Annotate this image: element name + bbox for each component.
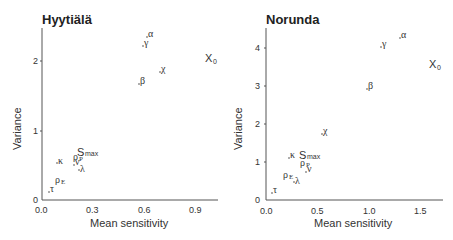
point-x0: X 0 — [429, 58, 441, 71]
svg-text:X: X — [429, 58, 437, 70]
y-tick: 3 — [255, 81, 260, 91]
y-tick: 4 — [255, 43, 260, 53]
x-tick: 1.5 — [414, 206, 427, 216]
svg-text:ρ: ρ — [283, 169, 288, 180]
chart-norunda-svg: Norunda 0 1 2 3 4 0.0 0.5 1.0 1.5 Mean s… — [0, 0, 453, 240]
svg-text:ρ: ρ — [300, 157, 305, 168]
svg-text:γ: γ — [381, 38, 387, 49]
point-kappa: κ — [288, 149, 295, 160]
point-tau: τ — [271, 184, 277, 195]
point-nu: ν — [305, 163, 312, 174]
y-tick: 1 — [255, 157, 260, 167]
x-tick: 1.0 — [363, 206, 376, 216]
svg-text:χ: χ — [322, 125, 328, 136]
svg-text:α: α — [401, 29, 407, 40]
point-gamma: γ — [380, 38, 387, 49]
svg-text:E: E — [289, 173, 293, 181]
point-rho-e: ρ E — [283, 169, 293, 181]
svg-text:ν: ν — [307, 163, 312, 174]
point-chi: χ — [321, 125, 328, 136]
svg-text:0: 0 — [437, 64, 441, 71]
x-axis-label: Mean sensitivity — [314, 217, 393, 229]
svg-text:β: β — [368, 80, 373, 91]
svg-text:λ: λ — [295, 175, 300, 186]
svg-text:τ: τ — [273, 184, 277, 195]
svg-text:κ: κ — [290, 149, 295, 160]
y-tick: 2 — [255, 119, 260, 129]
chart-norunda: Norunda 0 1 2 3 4 0.0 0.5 1.0 1.5 Mean s… — [0, 0, 453, 240]
x-tick: 0.5 — [311, 206, 324, 216]
y-axis-label: Variance — [232, 107, 244, 150]
chart-title: Norunda — [266, 12, 320, 27]
point-lambda: λ — [293, 175, 300, 186]
point-alpha: α — [399, 29, 407, 40]
y-tick: 0 — [255, 195, 260, 205]
x-tick: 0.0 — [260, 206, 273, 216]
point-beta: β — [366, 80, 373, 91]
svg-text:max: max — [307, 153, 321, 160]
